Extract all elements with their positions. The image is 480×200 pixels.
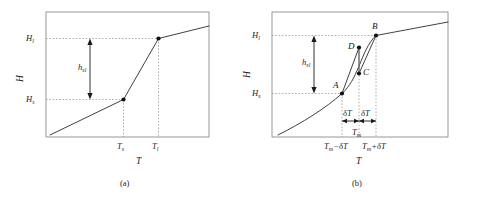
panel-b-point-b <box>374 33 378 37</box>
panel-b-point-a <box>340 91 344 95</box>
panel-a-axis-y-label: H <box>16 75 26 82</box>
panel-b-ytick-hs: Hs <box>252 89 261 98</box>
panel-a-ytick-hl: Hl <box>26 34 34 43</box>
panel-b-plot <box>240 0 480 200</box>
panel-a-enthalpy-curve <box>50 26 209 135</box>
panel-b-enthalpy-curve <box>278 22 448 135</box>
panel-b-xtick-tm-plus: Tm+δT <box>362 142 386 151</box>
panel-b-axis-x-label: T <box>356 157 361 167</box>
panel-b-point-d <box>357 45 361 49</box>
panel-b-chord-ad <box>342 48 359 94</box>
panel-a-axis-x-label: T <box>136 157 141 167</box>
panel-b-deltaT-right-arrowhead-start <box>359 119 364 124</box>
panel-a-hsl-arrowhead-down <box>87 93 92 100</box>
panel-b-deltaT-left-label: δT <box>343 109 352 118</box>
panel-b-axis-y-label: H <box>243 71 253 78</box>
panel-b-hsl-arrowhead-down <box>311 87 316 94</box>
panel-a: Hl Hs H Ts Tl T hsl (a) <box>0 0 240 200</box>
panel-a-hsl-arrowhead-up <box>87 39 92 46</box>
panel-a-caption: (a) <box>120 178 129 188</box>
panel-a-frame <box>46 12 209 137</box>
panel-b-label-c: C <box>363 67 369 77</box>
panel-b-caption: (b) <box>352 178 362 188</box>
panel-b-label-a: A <box>333 80 339 90</box>
figure-root: Hl Hs H Ts Tl T hsl (a) <box>0 0 480 200</box>
panel-a-xtick-ts: Ts <box>117 142 124 151</box>
panel-b-label-d: D <box>348 41 355 51</box>
panel-b: Hl Hs H A B C D hsl δT δT Tm Tm−δT Tm+δT… <box>240 0 480 200</box>
panel-b-deltaT-right-arrowhead-end <box>371 119 376 124</box>
panel-b-xtick-tm: Tm <box>352 128 361 137</box>
panel-b-point-c <box>357 71 361 75</box>
panel-a-xtick-tl: Tl <box>152 142 159 151</box>
panel-b-hsl-arrowhead-up <box>311 36 316 43</box>
panel-b-deltaT-right-label: δT <box>361 109 370 118</box>
panel-b-deltaT-left-arrowhead-end <box>354 119 359 124</box>
panel-a-point-liquidus <box>156 36 160 40</box>
panel-b-label-b: B <box>372 21 378 31</box>
panel-a-plot <box>0 0 240 200</box>
panel-b-ytick-hl: Hl <box>252 31 260 40</box>
panel-a-hsl-label: hsl <box>78 63 86 72</box>
panel-a-ytick-hs: Hs <box>26 95 35 104</box>
panel-b-deltaT-left-arrowhead-start <box>342 119 347 124</box>
panel-a-point-solidus <box>121 97 125 101</box>
panel-b-hsl-label: hsl <box>302 58 310 67</box>
panel-b-xtick-tm-minus: Tm−δT <box>324 142 348 151</box>
